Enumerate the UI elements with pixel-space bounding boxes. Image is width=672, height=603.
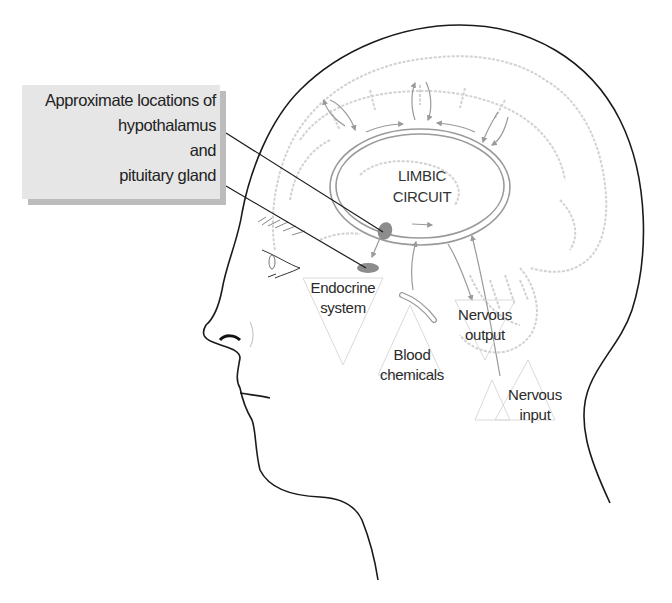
nervous-input-label: Nervous input	[505, 385, 565, 425]
endocrine-system-label: Endocrine system	[305, 278, 381, 318]
eye	[262, 250, 300, 278]
blood-chemicals-label: Blood chemicals	[378, 345, 446, 385]
callout-line-2: hypothalamus	[26, 113, 216, 138]
callout-line-3: and	[26, 138, 216, 163]
eyebrow	[258, 217, 305, 235]
nostril-icon	[220, 336, 240, 340]
callout-box: Approximate locations of hypothalamus an…	[22, 85, 220, 199]
cheek-line	[250, 322, 253, 347]
limbic-circuit-label: LIMBIC CIRCUIT	[388, 165, 456, 207]
leader-lines	[226, 133, 383, 268]
nervous-output-label: Nervous output	[455, 305, 515, 345]
callout-line-4: pituitary gland	[26, 163, 216, 188]
callout-line-1: Approximate locations of	[26, 88, 216, 113]
